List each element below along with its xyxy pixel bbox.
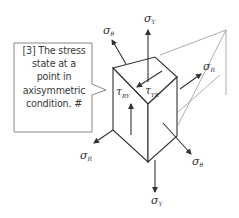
svg-text:σθ: σθ: [192, 155, 204, 168]
callout-text: [3] The stress state at a point in axisy…: [14, 44, 94, 110]
label-sigma-theta-top: σθ: [103, 24, 115, 37]
label-sigma-theta-bottom: σθ: [192, 155, 204, 168]
label-sigma-r-right: σR: [203, 60, 216, 73]
callout-line: axisymmetric: [14, 84, 94, 97]
label-sigma-y-top: σY: [144, 12, 157, 25]
callout-line: condition. #: [14, 97, 94, 110]
svg-text:σY: σY: [144, 12, 157, 25]
callout-line: state at a: [14, 57, 94, 70]
svg-text:σY: σY: [151, 194, 164, 207]
label-sigma-y-bottom: σY: [151, 194, 164, 207]
callout-line: [3] The stress: [14, 44, 94, 57]
svg-text:σR: σR: [203, 60, 216, 73]
sigma-r-left-arrow: [94, 130, 113, 143]
sigma-r-right-arrow: [180, 74, 201, 89]
stress-cube: [113, 57, 177, 162]
svg-text:σθ: σθ: [103, 24, 115, 37]
callout-line: point in: [14, 70, 94, 83]
sigma-theta-top-arrow: [112, 40, 126, 64]
svg-text:σR: σR: [80, 149, 93, 162]
label-sigma-r-left: σR: [80, 149, 93, 162]
